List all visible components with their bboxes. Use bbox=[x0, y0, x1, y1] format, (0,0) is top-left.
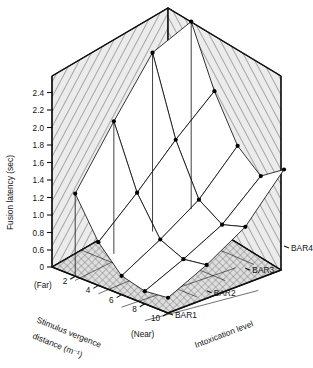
data-point-marker bbox=[166, 296, 170, 300]
data-point-marker bbox=[112, 119, 116, 123]
z-tick-label: BAR3 bbox=[252, 265, 274, 275]
x-tick-label: 4 bbox=[86, 286, 91, 295]
data-point-marker bbox=[259, 174, 263, 178]
y-tick-label: 2.2 bbox=[33, 106, 45, 115]
data-point-marker bbox=[120, 274, 124, 278]
x-tick-mark bbox=[117, 295, 122, 298]
data-point-marker bbox=[212, 89, 216, 93]
y-tick-label: 0 bbox=[39, 263, 44, 272]
data-point-marker bbox=[189, 19, 193, 23]
data-point-marker bbox=[73, 191, 77, 195]
data-point-marker bbox=[181, 257, 185, 261]
z-axis-title: Intoxication level bbox=[193, 318, 255, 350]
y-tick-label: 2.4 bbox=[33, 89, 45, 98]
data-point-marker bbox=[236, 144, 240, 148]
data-point-marker bbox=[158, 237, 162, 241]
data-point-marker bbox=[96, 240, 100, 244]
data-point-marker bbox=[282, 167, 286, 171]
y-tick-label: 0.6 bbox=[33, 246, 45, 255]
z-tick-label: BAR4 bbox=[291, 243, 313, 253]
z-tick-mark bbox=[284, 246, 289, 248]
y-tick-label: 0.8 bbox=[33, 229, 45, 238]
data-point-marker bbox=[174, 138, 178, 142]
y-tick-label: 1.6 bbox=[33, 159, 45, 168]
data-point-marker bbox=[220, 223, 224, 227]
data-point-marker bbox=[197, 198, 201, 202]
x-tick-mark bbox=[140, 304, 145, 307]
data-point-marker bbox=[243, 225, 247, 229]
x-tick-label: 8 bbox=[132, 305, 137, 314]
y-axis-title: Fusion latency (sec) bbox=[5, 155, 15, 230]
y-tick-label: 1.0 bbox=[33, 211, 45, 220]
data-point-marker bbox=[205, 263, 209, 267]
data-point-marker bbox=[135, 191, 139, 195]
z-tick-label: BAR1 bbox=[175, 310, 197, 320]
y-tick-label: 1.2 bbox=[33, 194, 45, 203]
x-tick-mark bbox=[70, 276, 75, 279]
y-axis-ticks: 2.42.22.01.81.61.41.21.00.80.60 bbox=[33, 89, 53, 273]
surface-plot-canvas: 2.42.22.01.81.61.41.21.00.80.60 246810 B… bbox=[0, 0, 313, 368]
data-point-marker bbox=[150, 51, 154, 55]
z-tick-label: BAR2 bbox=[214, 288, 236, 298]
y-tick-label: 2.0 bbox=[33, 124, 45, 133]
x-axis-far-label: (Far) bbox=[34, 281, 52, 290]
figure-3d-surface-plot: 2.42.22.01.81.61.41.21.00.80.60 246810 B… bbox=[0, 0, 313, 368]
data-point-marker bbox=[143, 289, 147, 293]
x-tick-label: 6 bbox=[109, 296, 114, 305]
x-tick-label: 2 bbox=[63, 277, 68, 286]
y-tick-label: 1.4 bbox=[33, 176, 45, 185]
x-tick-mark bbox=[93, 285, 98, 288]
x-tick-label: 10 bbox=[151, 314, 161, 323]
y-tick-label: 1.8 bbox=[33, 141, 45, 150]
x-axis-near-label: (Near) bbox=[131, 330, 154, 339]
